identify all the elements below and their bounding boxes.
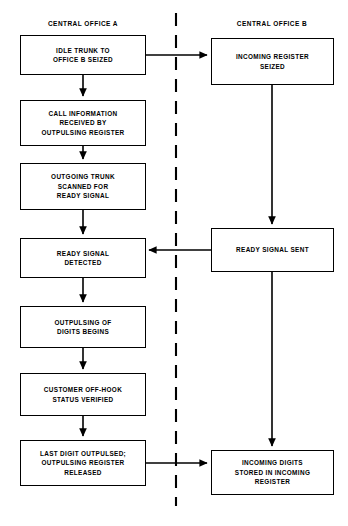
node-ready-sent[interactable]: READY SIGNAL SENT — [211, 228, 334, 272]
node-idle-trunk[interactable]: IDLE TRUNK TO OFFICE B SEIZED — [20, 35, 146, 75]
column-header-office-b: CENTRAL OFFICE B — [209, 19, 335, 28]
node-incoming-digits-label: INCOMING DIGITS STORED IN INCOMING REGIS… — [232, 458, 313, 487]
node-outpulsing-digits[interactable]: OUTPULSING OF DIGITS BEGINS — [20, 306, 146, 348]
node-idle-trunk-label: IDLE TRUNK TO OFFICE B SEIZED — [50, 46, 116, 65]
column-header-office-a: CENTRAL OFFICE A — [20, 19, 146, 28]
node-incoming-register[interactable]: INCOMING REGISTER SEIZED — [211, 38, 334, 85]
node-customer-offhook[interactable]: CUSTOMER OFF-HOOK STATUS VERIFIED — [20, 373, 146, 416]
node-call-information[interactable]: CALL INFORMATION RECEIVED BY OUTPULSING … — [20, 100, 146, 146]
node-outpulsing-digits-label: OUTPULSING OF DIGITS BEGINS — [51, 318, 114, 337]
node-outgoing-trunk-label: OUTGOING TRUNK SCANNED FOR READY SIGNAL — [48, 172, 118, 201]
flowchart-canvas: CENTRAL OFFICE A CENTRAL OFFICE B IDLE T… — [0, 0, 348, 526]
node-last-digit[interactable]: LAST DIGIT OUTPULSED; OUTPULSING REGISTE… — [20, 440, 146, 486]
node-incoming-digits[interactable]: INCOMING DIGITS STORED IN INCOMING REGIS… — [211, 450, 334, 495]
node-incoming-register-label: INCOMING REGISTER SEIZED — [233, 52, 312, 71]
node-ready-sent-label: READY SIGNAL SENT — [233, 245, 312, 255]
node-ready-detected-label: READY SIGNAL DETECTED — [54, 249, 112, 268]
node-last-digit-label: LAST DIGIT OUTPULSED; OUTPULSING REGISTE… — [37, 449, 129, 478]
node-call-information-label: CALL INFORMATION RECEIVED BY OUTPULSING … — [39, 109, 128, 138]
node-customer-offhook-label: CUSTOMER OFF-HOOK STATUS VERIFIED — [41, 385, 125, 404]
node-outgoing-trunk[interactable]: OUTGOING TRUNK SCANNED FOR READY SIGNAL — [20, 163, 146, 210]
node-ready-detected[interactable]: READY SIGNAL DETECTED — [20, 238, 146, 278]
